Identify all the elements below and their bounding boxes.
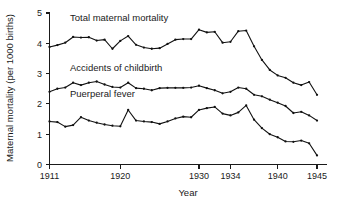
series-data-point xyxy=(206,107,208,109)
series-data-point xyxy=(237,111,239,113)
series-data-point xyxy=(198,85,200,87)
series-data-point xyxy=(48,46,50,48)
x-tick-label: 1920 xyxy=(110,171,130,181)
series-data-point xyxy=(135,87,137,89)
series-data-point xyxy=(198,29,200,31)
y-axis-group: 012345 Maternal mortality (per 1000 birt… xyxy=(4,8,50,170)
series-data-point xyxy=(182,38,184,40)
x-tick-label: 1934 xyxy=(220,171,240,181)
series-data-point xyxy=(229,41,231,43)
series-data-point xyxy=(151,89,153,91)
series-data-point xyxy=(159,123,161,125)
series-data-point xyxy=(214,89,216,91)
series-data-point xyxy=(48,91,50,93)
series-data-point xyxy=(269,133,271,135)
series-data-point xyxy=(64,42,66,44)
series-data-point xyxy=(166,120,168,122)
series-data-point xyxy=(292,82,294,84)
series-data-point xyxy=(229,114,231,116)
x-axis-title: Year xyxy=(178,187,197,198)
series-data-point xyxy=(143,46,145,48)
series-data-point xyxy=(261,59,263,61)
series-data-point xyxy=(174,39,176,41)
series-data-point xyxy=(88,36,90,38)
x-tick-marks xyxy=(50,165,318,169)
series-data-point xyxy=(72,36,74,38)
series-data-point xyxy=(269,99,271,101)
series-data-point xyxy=(119,125,121,127)
series-data-point xyxy=(96,80,98,82)
series-data-point xyxy=(206,87,208,89)
series-data-point xyxy=(80,36,82,38)
series-data-point xyxy=(198,109,200,111)
series-data-point xyxy=(214,106,216,108)
x-axis-group: 191119201930193419401945 Year xyxy=(40,165,327,199)
series-data-point xyxy=(103,83,105,85)
series-data-point xyxy=(316,119,318,121)
series-data-point xyxy=(237,30,239,32)
series-data-point xyxy=(245,88,247,90)
series-data-point xyxy=(72,82,74,84)
series-data-point xyxy=(88,82,90,84)
series-data-point xyxy=(229,91,231,93)
series-label: Accidents of childbirth xyxy=(70,62,162,73)
series-data-point xyxy=(300,139,302,141)
series-data-point xyxy=(261,95,263,97)
series-data-point xyxy=(56,88,58,90)
series-data-point xyxy=(174,117,176,119)
series-data-point xyxy=(308,114,310,116)
series-data-point xyxy=(88,119,90,121)
series-data-point xyxy=(143,88,145,90)
series-data-point xyxy=(277,74,279,76)
series-data-point xyxy=(135,119,137,121)
series-data-point xyxy=(261,127,263,129)
series-data-point xyxy=(111,125,113,127)
series-data-point xyxy=(206,31,208,33)
x-tick-label: 1911 xyxy=(40,171,59,181)
series-data-point xyxy=(284,105,286,107)
series-data-point xyxy=(316,94,318,96)
series-data-point xyxy=(119,40,121,42)
series-data-point xyxy=(190,116,192,118)
series-data-point xyxy=(190,86,192,88)
series-data-point xyxy=(111,48,113,50)
series-label: Total maternal mortality xyxy=(70,12,168,23)
series-data-point xyxy=(221,112,223,114)
series-data-point xyxy=(151,121,153,123)
series-data-point xyxy=(277,102,279,104)
x-tick-label: 1940 xyxy=(268,171,288,181)
series-data-point xyxy=(221,42,223,44)
series-data-point xyxy=(284,77,286,79)
series-data-point xyxy=(103,39,105,41)
y-tick-label: 1 xyxy=(37,130,42,140)
x-tick-label: 1930 xyxy=(189,171,209,181)
series-data-point xyxy=(316,154,318,156)
series-data-point xyxy=(253,45,255,47)
series-data-point xyxy=(308,142,310,144)
series-data-point xyxy=(221,92,223,94)
x-tick-label: 1945 xyxy=(307,171,327,181)
series-data-point xyxy=(300,84,302,86)
series-data-point xyxy=(143,120,145,122)
series-data-point xyxy=(159,47,161,49)
line-chart-svg: 012345 Maternal mortality (per 1000 birt… xyxy=(0,0,337,203)
series-data-point xyxy=(292,112,294,114)
series-data-point xyxy=(308,81,310,83)
series-data-point xyxy=(127,35,129,37)
series-line xyxy=(50,105,318,155)
series-data-point xyxy=(48,120,50,122)
series-data-point xyxy=(56,121,58,123)
y-tick-label: 0 xyxy=(37,160,42,170)
series-data-point xyxy=(269,69,271,71)
series-data-point xyxy=(174,87,176,89)
series-annotation-labels: Total maternal mortalityAccidents of chi… xyxy=(70,12,168,99)
y-tick-label: 5 xyxy=(37,8,42,18)
series-data-point xyxy=(277,136,279,138)
chart-figure: 012345 Maternal mortality (per 1000 birt… xyxy=(0,0,337,203)
series-data-point xyxy=(64,125,66,127)
series-data-point xyxy=(182,115,184,117)
y-tick-label: 3 xyxy=(37,69,42,79)
x-tick-labels: 191119201930193419401945 xyxy=(40,171,327,181)
y-tick-label: 2 xyxy=(37,99,42,109)
series-data-point xyxy=(80,84,82,86)
